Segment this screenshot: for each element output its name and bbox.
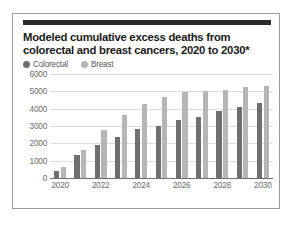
y-axis-tick-label: 2000 [30, 139, 47, 148]
legend-label: Breast [91, 60, 113, 69]
y-axis-tick-label: 5000 [30, 87, 47, 96]
bar-breast-2024[interactable] [142, 104, 147, 178]
bar-group-2021 [70, 74, 90, 178]
bar-breast-2027[interactable] [203, 91, 208, 178]
x-axis-tick-label: 2026 [172, 181, 192, 199]
chart-title-line-2: colorectal and breast cancers, 2020 to 2… [23, 44, 275, 57]
bar-breast-2025[interactable] [162, 97, 167, 178]
bar-colorectal-2025[interactable] [156, 126, 161, 178]
x-axis-tick-label [151, 181, 171, 199]
x-axis-tick-label: 2020 [50, 181, 70, 199]
x-axis-tick-label: 2022 [91, 181, 111, 199]
bar-group-2023 [111, 74, 131, 178]
chart-title-line-1: Modeled cumulative excess deaths from [23, 31, 275, 44]
bar-colorectal-2029[interactable] [237, 107, 242, 178]
chart-legend: ColorectalBreast [23, 60, 113, 69]
bar-colorectal-2024[interactable] [135, 129, 140, 178]
x-axis-tick-label [70, 181, 90, 199]
y-axis-tick-label: 1000 [30, 156, 47, 165]
bar-groups [50, 74, 273, 178]
bar-breast-2021[interactable] [81, 150, 86, 178]
legend-item-breast[interactable]: Breast [81, 60, 113, 69]
bar-breast-2029[interactable] [243, 87, 248, 178]
chart-card: Modeled cumulative excess deaths from co… [12, 13, 280, 209]
page-title: Modeled cumulative excess deaths from co… [23, 31, 275, 56]
bar-group-2028 [212, 74, 232, 178]
y-axis-tick-label: 6000 [30, 70, 47, 79]
bar-group-2026 [172, 74, 192, 178]
bar-breast-2028[interactable] [223, 90, 228, 178]
bar-colorectal-2027[interactable] [196, 117, 201, 178]
bar-group-2024 [131, 74, 151, 178]
y-axis-tick-label: 3000 [30, 122, 47, 131]
bar-group-2029 [232, 74, 252, 178]
x-axis-tick-label: 2030 [253, 181, 273, 199]
x-axis-line [50, 178, 273, 179]
bar-colorectal-2023[interactable] [115, 137, 120, 178]
bar-breast-2026[interactable] [182, 92, 187, 178]
bar-breast-2030[interactable] [264, 86, 269, 178]
x-axis-labels: 202020222024202620282030 [50, 181, 273, 199]
bar-colorectal-2020[interactable] [54, 171, 59, 178]
x-axis-tick-label [111, 181, 131, 199]
bar-group-2030 [253, 74, 273, 178]
legend-item-colorectal[interactable]: Colorectal [23, 60, 68, 69]
y-axis-labels: 6000500040003000200010000 [23, 74, 50, 178]
x-axis-tick-label: 2024 [131, 181, 151, 199]
legend-label: Colorectal [33, 60, 68, 69]
bar-colorectal-2021[interactable] [74, 155, 79, 178]
decorative-top-rule [23, 20, 271, 25]
bar-group-2027 [192, 74, 212, 178]
legend-swatch-icon [81, 61, 88, 68]
y-axis-tick-label: 4000 [30, 104, 47, 113]
bar-colorectal-2026[interactable] [176, 120, 181, 178]
y-axis-tick-label: 0 [43, 174, 47, 183]
plot-area: 6000500040003000200010000 20202022202420… [23, 74, 273, 204]
bar-group-2022 [91, 74, 111, 178]
legend-swatch-icon [23, 61, 30, 68]
x-axis-tick-label [232, 181, 252, 199]
x-axis-tick-label: 2028 [212, 181, 232, 199]
x-axis-tick-label [192, 181, 212, 199]
bar-breast-2023[interactable] [122, 115, 127, 178]
bar-colorectal-2030[interactable] [257, 103, 262, 178]
bar-colorectal-2028[interactable] [216, 111, 221, 178]
bar-group-2020 [50, 74, 70, 178]
bar-breast-2022[interactable] [101, 130, 106, 178]
bar-breast-2020[interactable] [61, 167, 66, 178]
bar-group-2025 [151, 74, 171, 178]
bar-colorectal-2022[interactable] [95, 145, 100, 178]
